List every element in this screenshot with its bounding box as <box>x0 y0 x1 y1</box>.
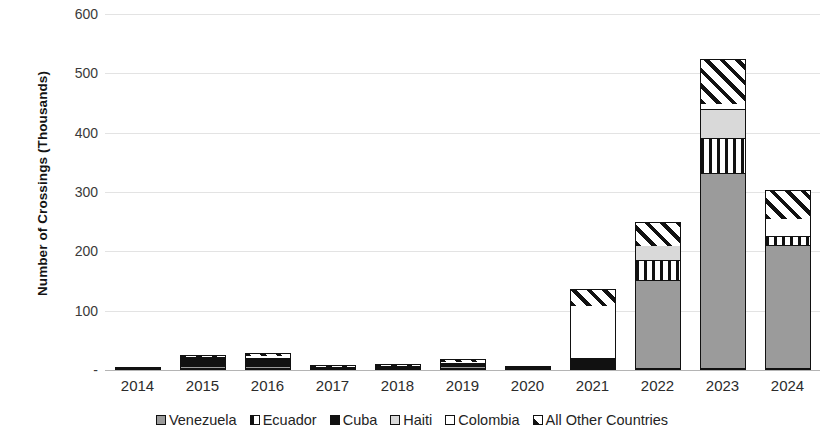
bar-slot <box>170 14 235 370</box>
x-axis-tick-label: 2018 <box>365 376 430 396</box>
bar-segment <box>181 367 225 369</box>
table-row[interactable] <box>635 222 681 370</box>
legend-item-cuba[interactable]: Cuba <box>330 412 378 428</box>
table-row[interactable] <box>245 353 291 370</box>
x-axis-tick-label: 2019 <box>430 376 495 396</box>
bar-segment <box>246 367 290 369</box>
bar-slot <box>560 14 625 370</box>
table-row[interactable] <box>765 190 811 370</box>
bar-segment <box>701 110 745 139</box>
x-axis-tick-label: 2016 <box>235 376 300 396</box>
x-axis-tick-label: 2015 <box>170 376 235 396</box>
bar-slot <box>495 14 560 370</box>
bar-slot <box>430 14 495 370</box>
legend-item-all-other-countries[interactable]: All Other Countries <box>533 412 669 428</box>
legend-swatch-icon <box>156 415 166 425</box>
bar-slot <box>690 14 755 370</box>
bar-segment <box>636 246 680 261</box>
bar-slot <box>235 14 300 370</box>
bar-segment <box>766 219 810 237</box>
legend-item-label: Venezuela <box>169 412 237 428</box>
legend-item-venezuela[interactable]: Venezuela <box>156 412 237 428</box>
bar-segment <box>376 368 420 369</box>
table-row[interactable] <box>570 289 616 370</box>
stacked-bar-chart: Number of Crossings (Thousands) -1002003… <box>0 0 824 436</box>
bar-segment <box>701 60 745 104</box>
y-axis-tick-label: 600 <box>75 7 98 21</box>
y-axis-tick-label: 200 <box>75 244 98 258</box>
legend-item-label: All Other Countries <box>546 412 669 428</box>
bar-segment <box>246 359 290 368</box>
legend-item-label: Ecuador <box>263 412 317 428</box>
y-axis-tick-label: 500 <box>75 66 98 80</box>
legend-item-label: Cuba <box>343 412 378 428</box>
bar-slot <box>625 14 690 370</box>
legend-item-label: Colombia <box>458 412 519 428</box>
x-axis-tick-label: 2024 <box>755 376 820 396</box>
x-axis-tick-labels: 2014201520162017201820192020202120222023… <box>105 376 820 400</box>
table-row[interactable] <box>180 355 226 370</box>
x-axis-tick-label: 2017 <box>300 376 365 396</box>
plot-area <box>105 14 820 370</box>
y-axis-tick-label: 300 <box>75 185 98 199</box>
bar-segment <box>441 367 485 369</box>
bar-segment <box>181 357 225 367</box>
bar-segment <box>766 191 810 219</box>
y-axis-tick-label: - <box>93 363 98 377</box>
bar-slot <box>105 14 170 370</box>
bar-slot <box>300 14 365 370</box>
legend-item-ecuador[interactable]: Ecuador <box>250 412 317 428</box>
table-row[interactable] <box>700 59 746 371</box>
y-axis-tick-labels: -100200300400500600 <box>36 0 98 380</box>
bar-slot <box>755 14 820 370</box>
bar-segment <box>636 281 680 369</box>
bar-segment <box>571 306 615 358</box>
legend-swatch-icon <box>250 415 260 425</box>
bar-segment <box>701 139 745 174</box>
axis-baseline <box>105 370 820 371</box>
legend-swatch-icon <box>390 415 400 425</box>
bar-segment <box>311 368 355 369</box>
legend-swatch-icon <box>533 415 543 425</box>
bar-segment <box>571 290 615 307</box>
chart-legend: VenezuelaEcuadorCubaHaitiColombiaAll Oth… <box>0 412 824 428</box>
x-axis-tick-label: 2023 <box>690 376 755 396</box>
x-axis-tick-label: 2014 <box>105 376 170 396</box>
bar-slot <box>365 14 430 370</box>
legend-item-colombia[interactable]: Colombia <box>445 412 519 428</box>
bar-segment <box>766 246 810 369</box>
legend-swatch-icon <box>330 415 340 425</box>
bar-segment <box>766 237 810 246</box>
x-axis-tick-label: 2020 <box>495 376 560 396</box>
x-axis-tick-label: 2022 <box>625 376 690 396</box>
bar-segment <box>701 174 745 369</box>
x-axis-tick-label: 2021 <box>560 376 625 396</box>
legend-item-haiti[interactable]: Haiti <box>390 412 432 428</box>
y-axis-tick-label: 100 <box>75 304 98 318</box>
bar-segment <box>636 223 680 246</box>
table-row[interactable] <box>440 359 486 370</box>
bar-segment <box>506 368 550 369</box>
bar-segment <box>636 261 680 282</box>
legend-item-label: Haiti <box>403 412 432 428</box>
bar-segment <box>571 359 615 369</box>
legend-swatch-icon <box>445 415 455 425</box>
y-axis-tick-label: 400 <box>75 126 98 140</box>
bar-segment <box>116 368 160 369</box>
